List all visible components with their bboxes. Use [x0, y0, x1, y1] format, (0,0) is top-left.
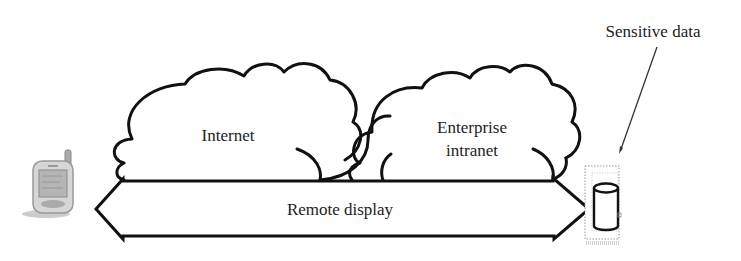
internet-label: Internet — [202, 126, 255, 145]
enterprise-label-line2: intranet — [446, 141, 498, 160]
remote-display-diagram: Internet Enterprise intranet Remote disp… — [0, 0, 741, 261]
internet-cloud: Internet — [114, 64, 390, 180]
enterprise-label-line1: Enterprise — [437, 118, 507, 137]
annotation-pointer-line — [621, 47, 657, 149]
database-server-icon — [585, 166, 621, 244]
annotation-arrowhead-icon — [619, 146, 623, 154]
pda-phone-icon — [22, 150, 73, 218]
sensitive-data-label: Sensitive data — [606, 22, 701, 41]
enterprise-intranet-cloud: Enterprise intranet — [350, 65, 580, 180]
sensitive-data-annotation: Sensitive data — [606, 22, 701, 154]
remote-display-arrow: Remote display — [96, 178, 589, 239]
remote-display-label: Remote display — [287, 200, 394, 219]
